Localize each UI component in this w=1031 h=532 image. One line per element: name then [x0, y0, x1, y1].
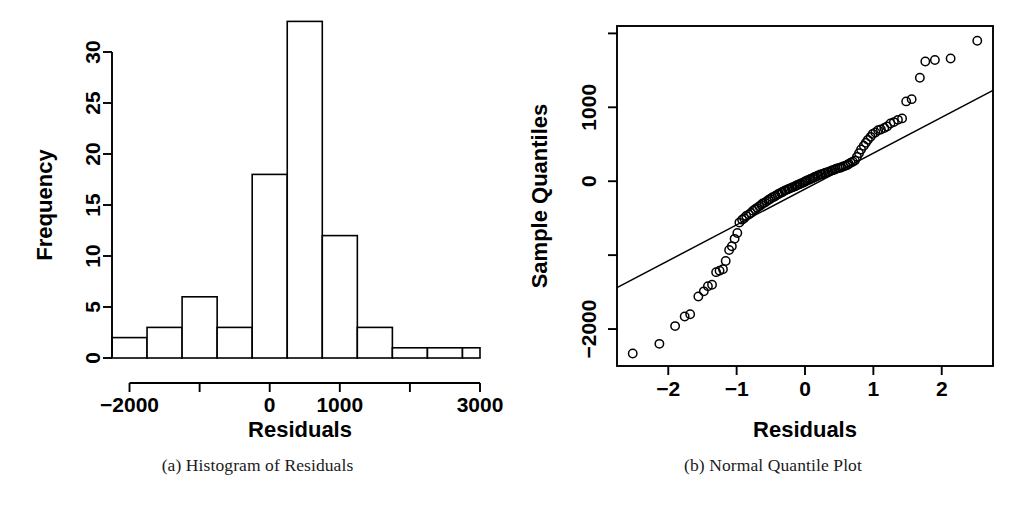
y-tick-label: 0 [578, 175, 601, 187]
x-tick-label: 1000 [316, 393, 363, 416]
plot-border-box [617, 26, 993, 366]
qq-data-point [629, 349, 637, 357]
caption-histogram: (a) Histogram of Residuals [0, 455, 515, 476]
y-axis-title: Frequency [32, 149, 57, 261]
qq-x-axis: −2−1012 [656, 366, 947, 400]
qq-data-point [973, 37, 981, 45]
y-tick-label: 15 [81, 193, 104, 217]
y-tick-label: 5 [81, 301, 104, 313]
qq-data-point [916, 74, 924, 82]
x-tick-label: −1 [725, 377, 749, 400]
x-tick-label: 3000 [457, 393, 504, 416]
qq-data-point [907, 95, 915, 103]
y-tick-label: −2000 [578, 300, 601, 359]
histogram-bar [112, 338, 147, 358]
qq-data-point [946, 54, 954, 62]
qq-data-point [931, 56, 939, 64]
x-tick-label: 0 [799, 377, 811, 400]
histogram-chart: 051015202530 −2000010003000 Frequency Re… [0, 0, 515, 450]
histogram-bar [392, 348, 427, 358]
qq-chart: −200001000 −2−1012 Sample Quantiles Resi… [515, 0, 1031, 450]
qq-data-point [686, 310, 694, 318]
histogram-bars [112, 21, 480, 358]
histogram-bar [427, 348, 462, 358]
y-axis-title: Sample Quantiles [527, 104, 552, 289]
qq-data-point [680, 312, 688, 320]
qq-reference-line [617, 90, 993, 287]
y-tick-label: 0 [81, 352, 104, 364]
qq-y-axis: −200001000 [578, 33, 618, 358]
x-axis-title: Residuals [248, 417, 352, 442]
x-tick-label: 2 [936, 377, 948, 400]
histogram-x-axis: −2000010003000 [100, 383, 503, 416]
y-tick-label: 20 [81, 142, 104, 165]
panel-histogram-of-residuals: 051015202530 −2000010003000 Frequency Re… [0, 0, 515, 450]
qq-data-point [921, 57, 929, 65]
y-tick-label: 25 [81, 91, 104, 115]
caption-qqplot: (b) Normal Quantile Plot [515, 455, 1031, 476]
x-tick-label: −2 [656, 377, 680, 400]
panel-normal-quantile-plot: −200001000 −2−1012 Sample Quantiles Resi… [515, 0, 1031, 450]
histogram-bar [287, 21, 322, 358]
qq-data-point [902, 97, 910, 105]
figure-root: 051015202530 −2000010003000 Frequency Re… [0, 0, 1031, 532]
histogram-bar [217, 327, 252, 358]
histogram-bar [357, 327, 392, 358]
qq-data-point [671, 322, 679, 330]
x-tick-label: −2000 [100, 393, 159, 416]
histogram-bar [322, 236, 357, 358]
histogram-y-axis: 051015202530 [81, 40, 113, 364]
qq-data-point [655, 340, 663, 348]
qq-data-point [694, 292, 702, 300]
histogram-bar [182, 297, 217, 358]
x-tick-label: 1 [868, 377, 880, 400]
qq-data-point [722, 257, 730, 265]
qq-points [629, 37, 982, 358]
histogram-bar [147, 327, 182, 358]
histogram-bar [462, 348, 480, 358]
caption-row: (a) Histogram of Residuals (b) Normal Qu… [0, 455, 1031, 495]
y-tick-label: 30 [81, 40, 104, 63]
x-axis-title: Residuals [753, 417, 857, 442]
y-tick-label: 10 [81, 244, 104, 267]
x-tick-label: 0 [264, 393, 276, 416]
histogram-bar [252, 174, 287, 358]
y-tick-label: 1000 [578, 84, 601, 131]
